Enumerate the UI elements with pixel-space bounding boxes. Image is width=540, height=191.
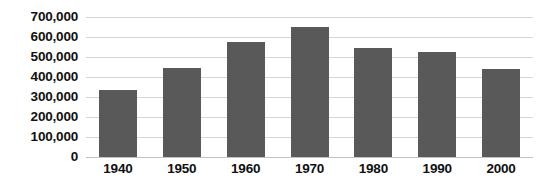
y-axis-tick-label: 0 xyxy=(71,149,78,165)
y-axis-tick-label: 500,000 xyxy=(31,49,78,65)
bar xyxy=(163,68,201,157)
y-axis-tick-label: 300,000 xyxy=(31,89,78,105)
plot-area xyxy=(86,17,533,157)
bar xyxy=(482,69,520,157)
bar xyxy=(418,52,456,157)
y-axis-tick-labels: 700,000600,000500,000400,000300,000200,0… xyxy=(0,17,78,157)
bar xyxy=(291,27,329,157)
gridline xyxy=(86,17,533,18)
x-axis-tick-label: 1970 xyxy=(278,161,342,176)
bar-chart: 700,000600,000500,000400,000300,000200,0… xyxy=(0,0,540,191)
x-axis-tick-label: 1980 xyxy=(341,161,405,176)
x-axis-tick-label: 1940 xyxy=(86,161,150,176)
bar xyxy=(227,42,265,157)
x-axis-tick-label: 2000 xyxy=(469,161,533,176)
y-axis-tick-label: 100,000 xyxy=(31,129,78,145)
y-axis-tick-label: 400,000 xyxy=(31,69,78,85)
x-axis-tick-label: 1950 xyxy=(150,161,214,176)
bar xyxy=(99,90,137,157)
x-axis-tick-label: 1960 xyxy=(214,161,278,176)
y-axis-tick-label: 200,000 xyxy=(31,109,78,125)
y-axis-tick-label: 600,000 xyxy=(31,29,78,45)
axis-baseline xyxy=(86,157,533,158)
x-axis-tick-label: 1990 xyxy=(405,161,469,176)
bar xyxy=(354,48,392,157)
y-axis-tick-label: 700,000 xyxy=(31,9,78,25)
x-axis-tick-labels: 1940195019601970198019902000 xyxy=(86,161,533,183)
